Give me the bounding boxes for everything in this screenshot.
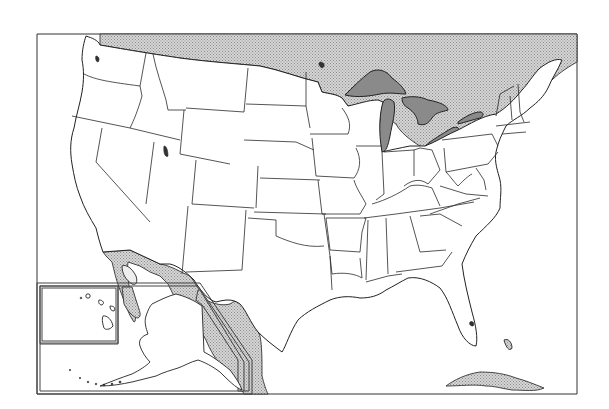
hawaii-inset[interactable] xyxy=(40,286,118,343)
alaska-inset-divider xyxy=(40,286,118,344)
cuba-region xyxy=(446,372,544,391)
hawaii-islands xyxy=(80,294,115,330)
mexico-inset-strip xyxy=(122,287,140,318)
us-outline-map xyxy=(0,0,609,409)
hawaii-inset-inner xyxy=(42,288,116,341)
bahamas xyxy=(504,339,512,349)
puget-sound xyxy=(96,56,99,62)
lake-okeechobee xyxy=(470,321,474,326)
